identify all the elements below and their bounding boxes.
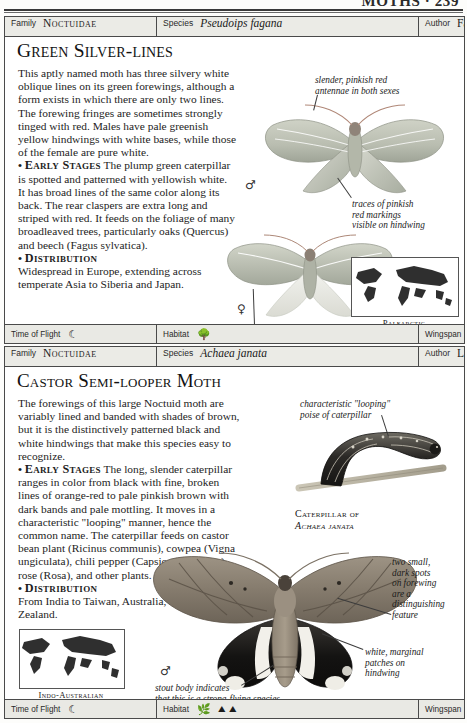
time-of-flight-cell-1: Time of Flight ☾ xyxy=(5,325,156,343)
distribution-text-1: Widespread in Europe, extending across t… xyxy=(18,265,201,290)
distribution-map-2 xyxy=(19,629,125,689)
moth-illustration-male xyxy=(255,99,460,209)
caterpillar-caption: Caterpillar of Achaea janata xyxy=(295,508,359,531)
intro-paragraph-1: This aptly named moth has three silvery … xyxy=(18,67,236,159)
species-label: Species xyxy=(163,18,193,28)
early-stages-heading-1: Early Stages xyxy=(25,158,101,172)
distribution-paragraph-1: • Distribution Widespread in Europe, ext… xyxy=(18,252,236,292)
field-guide-page: MOTHS · 239 Family Noctuidae Species Pse… xyxy=(0,0,467,723)
family-cell-2: Family Noctuidae xyxy=(5,347,156,366)
intro-paragraph-2: The forewings of this large Noctuid moth… xyxy=(18,397,240,463)
page-title-1: Green Silver-lines xyxy=(17,40,173,62)
species-cell-2: Species Achaea janata xyxy=(156,347,418,366)
annotation-pinkish-markings: traces of pinkish red markings visible o… xyxy=(352,199,425,231)
hills-icon-2: ⛰ ⛰ xyxy=(218,704,237,715)
author-cell: Author Fabricius xyxy=(418,17,464,36)
author-label: Author xyxy=(425,18,450,28)
author-value: Fabricius xyxy=(457,17,464,29)
annotation-antennae: slender, pinkish red antennae in both se… xyxy=(315,75,399,96)
time-of-flight-cell-2: Time of Flight ☾ xyxy=(5,700,156,718)
annotation-dark-spots: two small, dark spots on forewing are a … xyxy=(392,557,445,621)
species-value-2: Achaea janata xyxy=(200,347,267,359)
species-panel-green-silver-lines: Family Noctuidae Species Pseudoips fagan… xyxy=(4,16,465,344)
author-label-2: Author xyxy=(425,348,450,358)
annotation-white-patches: white, marginal patches on hindwing xyxy=(365,647,424,679)
panel1-body: Green Silver-lines This aptly named moth… xyxy=(5,37,464,326)
tree-icon-1: 🌳 xyxy=(197,328,211,341)
female-symbol-1: ♀ xyxy=(237,302,246,316)
author-value-2: Linnaeus xyxy=(457,347,464,359)
early-stages-heading-2: Early Stages xyxy=(25,462,101,476)
distribution-heading-1: Distribution xyxy=(25,251,97,265)
early-stages-paragraph-1: • Early Stages The plump green caterpill… xyxy=(18,159,236,251)
panel2-body: Castor Semi-looper Moth The forewings of… xyxy=(5,367,464,701)
habitat-cell-2: Habitat 🌿 ⛰ ⛰ xyxy=(156,700,418,718)
habitat-label-2: Habitat xyxy=(163,705,189,714)
early-stages-text-1: The plump green caterpillar is spotted a… xyxy=(18,159,235,250)
panel2-footer-row: Time of Flight ☾ Habitat 🌿 ⛰ ⛰ Wingspan … xyxy=(5,699,464,718)
panel1-footer-row: Time of Flight ☾ Habitat 🌳 Wingspan 1¼ –… xyxy=(5,324,464,343)
header-rule-thick xyxy=(4,9,463,11)
panel2-header-row: Family Noctuidae Species Achaea janata A… xyxy=(5,347,464,367)
time-of-flight-label-2: Time of Flight xyxy=(11,705,60,714)
species-cell: Species Pseudoips fagana xyxy=(156,17,418,36)
distribution-heading-2: Distribution xyxy=(25,581,97,595)
species-label-2: Species xyxy=(163,348,193,358)
wingspan-label-2: Wingspan xyxy=(425,705,461,714)
family-label: Family xyxy=(11,18,36,28)
wingspan-cell-2: Wingspan 2¼ –2½ in (5.5–6 cm) xyxy=(418,700,464,718)
habitat-cell-1: Habitat 🌳 xyxy=(156,325,418,343)
distribution-map-1 xyxy=(351,257,459,317)
page-title-2: Castor Semi-looper Moth xyxy=(17,370,221,392)
time-of-flight-label-1: Time of Flight xyxy=(11,330,60,339)
moon-icon-1: ☾ xyxy=(68,328,78,341)
family-value: Noctuidae xyxy=(43,17,97,29)
author-cell-2: Author Linnaeus xyxy=(418,347,464,366)
annotation-looping-poise: characteristic "looping" poise of caterp… xyxy=(300,399,390,420)
header-rule-thin xyxy=(4,12,463,13)
family-label-2: Family xyxy=(11,348,36,358)
family-cell: Family Noctuidae xyxy=(5,17,156,36)
male-symbol-2: ♂ xyxy=(160,664,171,678)
caterpillar-illustration xyxy=(293,412,458,507)
moon-icon-2: ☾ xyxy=(68,703,78,716)
caterpillar-caption-line1: Caterpillar of xyxy=(295,508,359,519)
caterpillar-caption-line2: Achaea janata xyxy=(295,520,354,531)
male-symbol-1: ♂ xyxy=(245,178,256,192)
species-value: Pseudoips fagana xyxy=(200,17,282,29)
panel1-description: This aptly named moth has three silvery … xyxy=(18,67,236,291)
wingspan-cell-1: Wingspan 1¼ –1½ in (3–4 cm) xyxy=(418,325,464,343)
habitat-label-1: Habitat xyxy=(163,330,189,339)
panel1-header-row: Family Noctuidae Species Pseudoips fagan… xyxy=(5,17,464,37)
grass-icon-2: 🌿 xyxy=(197,703,211,716)
wingspan-label-1: Wingspan xyxy=(425,330,461,339)
family-value-2: Noctuidae xyxy=(43,347,97,359)
species-panel-castor-semi-looper: Family Noctuidae Species Achaea janata A… xyxy=(4,346,465,719)
